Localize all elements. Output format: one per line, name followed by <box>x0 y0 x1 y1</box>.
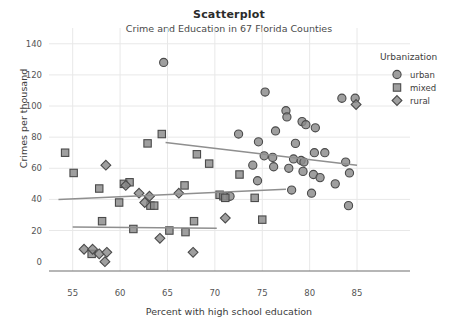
y-tick-label: 120 <box>18 70 42 80</box>
y-axis-title: Crimes per thousand <box>18 34 29 204</box>
legend-item-rural[interactable]: rural <box>390 94 458 107</box>
plot-canvas <box>0 0 458 330</box>
data-point-urban <box>316 174 324 182</box>
data-point-urban <box>249 161 257 169</box>
legend-label: urban <box>410 70 435 80</box>
y-tick-label: 60 <box>18 163 42 173</box>
data-point-rural <box>392 96 402 106</box>
legend-label: rural <box>410 96 430 106</box>
x-tick-label: 60 <box>115 288 126 298</box>
y-tick-label: 20 <box>18 226 42 236</box>
data-point-urban <box>310 149 318 157</box>
data-point-urban <box>288 186 296 194</box>
data-point-urban <box>299 167 307 175</box>
data-point-mixed <box>144 140 151 147</box>
legend-item-mixed[interactable]: mixed <box>390 81 458 94</box>
x-tick-label: 75 <box>257 288 268 298</box>
data-point-urban <box>261 88 269 96</box>
x-axis-title: Percent with high school education <box>0 306 458 317</box>
data-point-urban <box>260 152 268 160</box>
x-tick-label: 80 <box>304 288 315 298</box>
legend: Urbanization urbanmixedrural <box>380 52 458 107</box>
data-point-urban <box>291 139 299 147</box>
y-tick-label: 80 <box>18 132 42 142</box>
data-point-urban <box>307 189 315 197</box>
data-point-urban <box>234 130 242 138</box>
data-point-urban <box>289 155 297 163</box>
x-tick-label: 70 <box>209 288 220 298</box>
data-point-urban <box>345 169 353 177</box>
x-tick-label: 65 <box>162 288 173 298</box>
data-point-rural <box>155 233 165 243</box>
data-point-mixed <box>236 171 243 178</box>
data-point-urban <box>283 113 291 121</box>
trend-line-rural <box>73 227 217 228</box>
y-tick-label: 140 <box>18 39 42 49</box>
data-point-rural <box>100 257 110 267</box>
data-point-mixed <box>251 194 258 201</box>
circle-marker-icon <box>390 68 404 81</box>
data-point-rural <box>102 247 112 257</box>
square-marker-icon <box>390 81 404 94</box>
data-point-urban <box>270 163 278 171</box>
data-point-urban <box>271 127 279 135</box>
data-point-mixed <box>259 216 266 223</box>
data-point-urban <box>285 164 293 172</box>
data-point-mixed <box>181 182 188 189</box>
data-point-urban <box>338 94 346 102</box>
data-point-urban <box>331 180 339 188</box>
data-point-urban <box>160 58 168 66</box>
data-point-urban <box>342 158 350 166</box>
data-point-mixed <box>98 217 105 224</box>
legend-item-urban[interactable]: urban <box>390 68 458 81</box>
legend-label: mixed <box>410 83 436 93</box>
y-tick-label: 0 <box>18 257 42 267</box>
data-point-urban <box>302 121 310 129</box>
data-point-mixed <box>205 160 212 167</box>
data-point-urban <box>311 124 319 132</box>
data-point-mixed <box>222 194 229 201</box>
data-point-mixed <box>130 225 137 232</box>
data-point-mixed <box>115 199 122 206</box>
data-point-urban <box>344 202 352 210</box>
series-urban <box>160 58 360 209</box>
data-point-mixed <box>393 84 400 91</box>
data-point-rural <box>220 213 230 223</box>
x-tick-label: 85 <box>352 288 363 298</box>
y-tick-label: 100 <box>18 101 42 111</box>
data-point-mixed <box>96 185 103 192</box>
y-tick-label: 40 <box>18 194 42 204</box>
data-point-urban <box>393 70 401 78</box>
data-point-mixed <box>193 151 200 158</box>
data-point-mixed <box>151 202 158 209</box>
scatterplot-figure: Scatterplot Crime and Education in 67 Fl… <box>0 0 458 330</box>
data-point-rural <box>188 247 198 257</box>
data-point-mixed <box>158 130 165 137</box>
diamond-marker-icon <box>390 94 404 107</box>
data-point-mixed <box>70 169 77 176</box>
data-point-urban <box>253 177 261 185</box>
data-point-mixed <box>61 149 68 156</box>
data-point-urban <box>321 149 329 157</box>
data-point-mixed <box>182 228 189 235</box>
data-point-mixed <box>190 217 197 224</box>
legend-title: Urbanization <box>380 52 458 62</box>
data-point-urban <box>254 138 262 146</box>
x-tick-label: 55 <box>67 288 78 298</box>
